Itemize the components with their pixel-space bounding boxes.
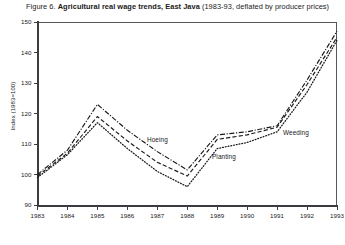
series-label-planting: Planting [212, 153, 236, 160]
series-line-planting [38, 37, 338, 176]
figure-container: Figure 6. Agricultural real wage trends,… [0, 0, 345, 245]
series-label-weeding: Weeding [283, 129, 309, 136]
series-label-hoeing: Hoeing [147, 136, 168, 143]
series-line-hoeing [38, 31, 338, 174]
series-line-weeding [38, 40, 338, 186]
series-plot [0, 0, 345, 245]
